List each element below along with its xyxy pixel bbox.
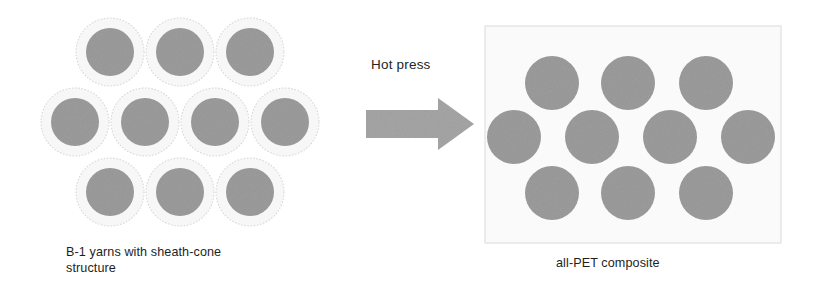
yarn-cross-section xyxy=(181,88,249,156)
arrow-shape xyxy=(366,98,474,150)
yarn-core xyxy=(86,168,134,216)
right-caption: all-PET composite xyxy=(556,256,776,272)
composite-fibre xyxy=(525,56,579,110)
hot-press-label: Hot press xyxy=(371,57,431,72)
composite-fibre xyxy=(525,166,579,220)
left-caption-line-1: B-1 yarns with sheath-cone xyxy=(66,245,316,261)
left-caption-line-2: structure xyxy=(66,261,316,277)
yarn-cross-section xyxy=(251,88,319,156)
yarn-cross-section xyxy=(41,88,109,156)
composite-fibre xyxy=(565,110,619,164)
composite-fibre xyxy=(601,166,655,220)
composite-fibre xyxy=(601,56,655,110)
yarn-cross-section xyxy=(216,158,284,226)
yarn-cross-section xyxy=(76,18,144,86)
yarn-cross-section xyxy=(146,18,214,86)
composite-fibre xyxy=(679,166,733,220)
yarn-cluster-diagram xyxy=(40,8,360,236)
yarn-cluster-svg xyxy=(40,8,360,236)
yarn-core xyxy=(261,98,309,146)
yarn-core xyxy=(226,28,274,76)
yarn-core xyxy=(191,98,239,146)
right-arrow-svg xyxy=(364,96,476,152)
composite-fibre xyxy=(679,56,733,110)
composite-fibre xyxy=(487,110,541,164)
composite-fibre xyxy=(643,110,697,164)
composite-panel-diagram xyxy=(484,25,782,244)
yarn-core xyxy=(156,168,204,216)
yarn-core xyxy=(51,98,99,146)
yarn-core xyxy=(156,28,204,76)
composite-fibre xyxy=(721,110,775,164)
yarn-core xyxy=(226,168,274,216)
yarn-core xyxy=(121,98,169,146)
yarn-group xyxy=(41,18,319,226)
yarn-core xyxy=(86,28,134,76)
yarn-cross-section xyxy=(216,18,284,86)
right-arrow-icon xyxy=(364,96,476,152)
yarn-cross-section xyxy=(146,158,214,226)
yarn-cross-section xyxy=(111,88,179,156)
composite-panel-svg xyxy=(484,25,782,244)
yarn-cross-section xyxy=(76,158,144,226)
figure-root: Hot press B-1 yarns xyxy=(0,0,824,298)
left-caption: B-1 yarns with sheath-cone structure xyxy=(66,245,316,276)
